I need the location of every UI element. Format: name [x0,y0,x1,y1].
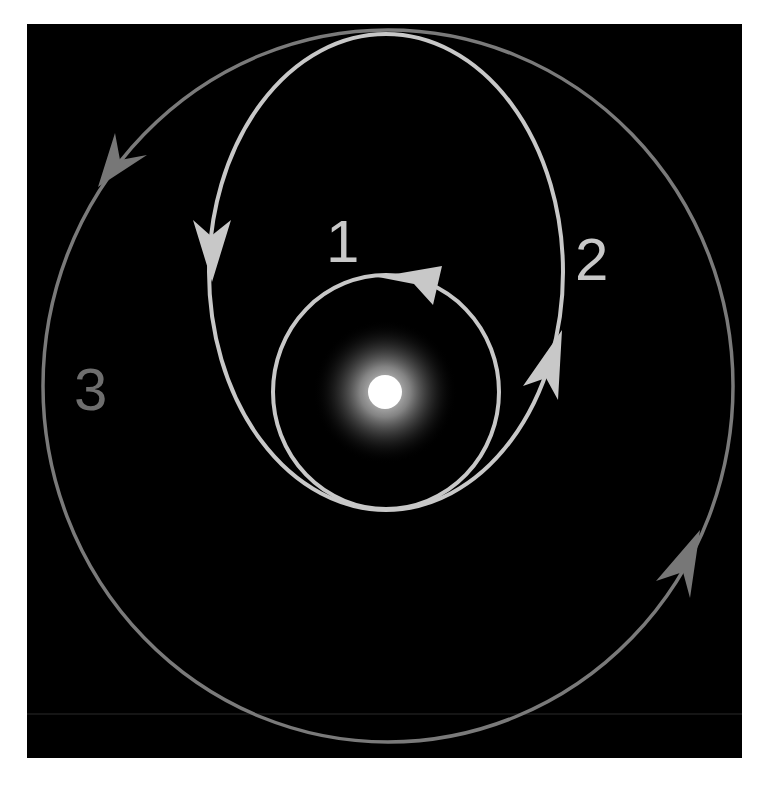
star-icon [368,375,402,409]
orbit-1-label: 1 [326,208,359,275]
orbit-2-label: 2 [575,226,608,293]
orbit-3-label: 3 [74,356,107,423]
hohmann-transfer-diagram: 1 2 3 [0,0,768,788]
